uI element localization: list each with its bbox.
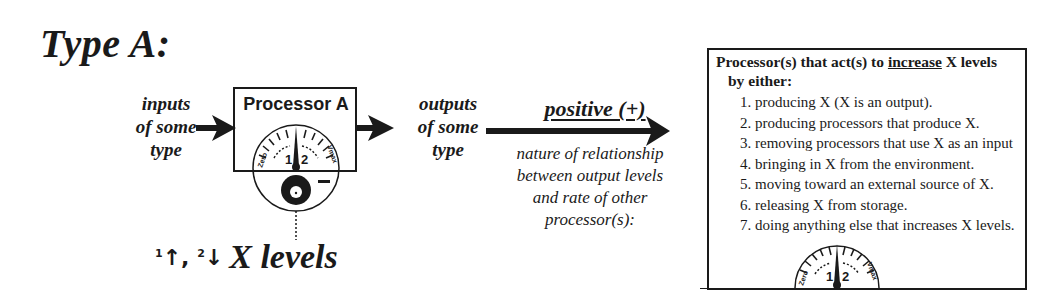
input-arrow-icon — [196, 115, 236, 141]
svg-text:2: 2 — [842, 269, 849, 284]
svg-text:Vmax: Vmax — [326, 144, 339, 164]
svg-text:1: 1 — [285, 152, 292, 167]
svg-text:Zero: Zero — [797, 270, 809, 287]
svg-text:2: 2 — [301, 152, 308, 167]
svg-text:1: 1 — [826, 269, 833, 284]
info-box-gauge-icon: 1 2 Zero Vmax — [700, 244, 1027, 289]
diagram-graphics: 1 2 Zero Vmax 1 2 — [0, 0, 1049, 301]
output-arrow-icon — [357, 115, 394, 141]
valve-icon — [281, 175, 311, 205]
minus-sign-icon — [318, 180, 330, 183]
relationship-arrow-icon — [486, 116, 670, 146]
svg-text:Vmax: Vmax — [866, 261, 879, 281]
svg-text:Zero: Zero — [256, 152, 268, 169]
